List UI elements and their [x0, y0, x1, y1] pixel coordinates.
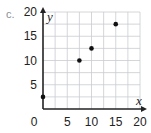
y-axis-label: y	[45, 9, 53, 24]
scatter-chart: 051015205101520 x y	[0, 0, 151, 133]
x-axis-label: x	[135, 93, 142, 108]
data-point	[77, 58, 82, 63]
x-tick-label: 10	[85, 115, 99, 129]
data-point	[113, 22, 118, 27]
grid	[43, 12, 140, 109]
tick-labels: 051015205101520	[24, 5, 147, 129]
x-axis-arrow-icon	[141, 106, 147, 112]
x-tick-label: 20	[133, 115, 147, 129]
x-tick-label: 0	[31, 115, 38, 129]
x-tick-label: 5	[64, 115, 71, 129]
y-tick-label: 20	[24, 5, 38, 19]
y-tick-label: 10	[24, 54, 38, 68]
axes	[40, 7, 147, 112]
data-point	[41, 95, 46, 100]
data-point	[89, 46, 94, 51]
y-tick-label: 5	[30, 78, 37, 92]
y-axis-arrow-icon	[40, 7, 46, 13]
x-tick-label: 15	[109, 115, 123, 129]
y-tick-label: 15	[24, 29, 38, 43]
